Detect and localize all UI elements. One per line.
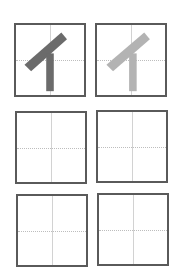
practice-box-blank[interactable]	[15, 111, 87, 184]
practice-box-blank[interactable]	[96, 110, 168, 183]
practice-box-blank[interactable]	[16, 194, 88, 267]
practice-box-model	[14, 23, 86, 97]
katakana-i-model-glyph	[16, 25, 84, 95]
horizontal-guide-line	[17, 148, 85, 149]
horizontal-guide-line	[18, 231, 86, 232]
practice-box-blank[interactable]	[97, 193, 169, 266]
practice-box-trace	[95, 23, 167, 97]
horizontal-guide-line	[99, 230, 167, 231]
katakana-i-trace-glyph	[97, 25, 165, 95]
horizontal-guide-line	[98, 147, 166, 148]
